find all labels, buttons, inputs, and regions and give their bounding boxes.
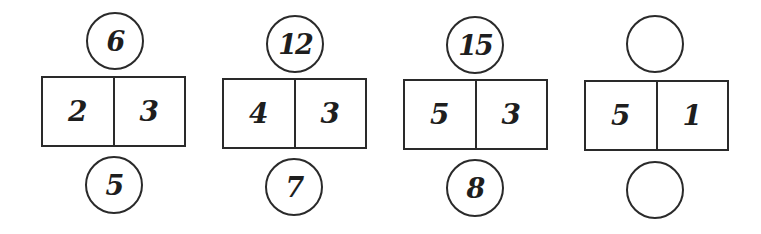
- bottom-circle-1: 5: [85, 156, 143, 214]
- number-puzzle: 6 2 3 5 12 4 3 7 15 5 3 8 5 1: [0, 0, 761, 234]
- box-1: 2 3: [41, 76, 186, 147]
- box-1-right-cell: 3: [115, 78, 185, 145]
- bottom-circle-2: 7: [265, 158, 323, 216]
- box-4-right-cell: 1: [658, 82, 728, 149]
- top-circle-1: 6: [86, 12, 144, 70]
- box-1-left-cell: 2: [43, 78, 115, 145]
- bottom-circle-3: 8: [446, 159, 504, 217]
- top-circle-2: 12: [266, 15, 324, 73]
- box-2-right-cell: 3: [296, 80, 366, 147]
- box-4: 5 1: [584, 80, 729, 151]
- box-3-right-cell: 3: [477, 81, 547, 148]
- bottom-circle-4-blank: [626, 161, 684, 219]
- box-4-left-cell: 5: [586, 82, 658, 149]
- top-circle-3: 15: [446, 16, 504, 74]
- box-2-left-cell: 4: [224, 80, 296, 147]
- box-2: 4 3: [222, 78, 367, 149]
- box-3: 5 3: [403, 79, 548, 150]
- box-3-left-cell: 5: [405, 81, 477, 148]
- top-circle-4-blank: [626, 15, 684, 73]
